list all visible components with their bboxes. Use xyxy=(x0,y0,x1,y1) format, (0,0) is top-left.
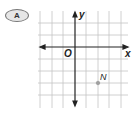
origin-label: O xyxy=(64,48,72,59)
grid-lines xyxy=(38,11,128,108)
y-axis-up-arrow-icon xyxy=(73,12,77,17)
x-axis-left-arrow-icon xyxy=(40,45,45,49)
x-axis-label: x xyxy=(125,48,131,59)
y-axis-down-arrow-icon xyxy=(73,101,77,106)
y-axis-label: y xyxy=(79,9,85,20)
point-n-label: N xyxy=(100,72,107,82)
